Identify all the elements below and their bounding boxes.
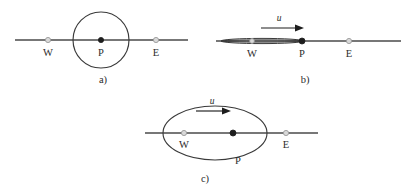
panel-b-arrow-head-icon <box>295 24 304 31</box>
panel-c-velocity-arrow: u <box>196 96 231 115</box>
panel-a-marker-w <box>45 37 50 42</box>
panel-b-velocity-arrow: u <box>261 13 304 32</box>
panel-b-label-e: E <box>346 48 352 59</box>
panel-b-marker-w <box>250 39 255 44</box>
panel-a-label-w: W <box>43 47 53 58</box>
panel-a-marker-e <box>153 37 158 42</box>
panel-b-label-p: P <box>299 48 305 59</box>
panel-b-label-w: W <box>247 48 257 59</box>
figure-canvas: W P E a) W P E u b) <box>0 0 412 190</box>
panel-c-label-e: E <box>283 139 289 150</box>
wavefront-diagram: W P E a) W P E u b) <box>0 0 412 190</box>
panel-b-marker-e <box>346 38 351 43</box>
panel-a: W P E a) <box>15 12 188 86</box>
panel-a-marker-p <box>98 37 103 42</box>
panel-c-marker-p <box>230 130 236 136</box>
panel-b-caption: b) <box>301 74 310 86</box>
panel-c-caption: c) <box>201 173 210 185</box>
panel-b-marker-p <box>299 38 305 44</box>
panel-c-label-w: W <box>179 139 189 150</box>
panel-b-velocity-label: u <box>277 13 282 23</box>
panel-c: W P E u c) <box>145 96 318 185</box>
panel-a-label-p: P <box>98 47 104 58</box>
panel-c-marker-e <box>283 130 288 135</box>
panel-c-velocity-label: u <box>210 96 215 106</box>
panel-b: W P E u b) <box>216 13 401 86</box>
panel-a-label-e: E <box>153 47 159 58</box>
panel-c-label-p: P <box>235 155 241 166</box>
panel-c-arrow-head-icon <box>222 107 231 114</box>
panel-c-marker-w <box>181 130 186 135</box>
panel-a-caption: a) <box>99 74 108 86</box>
